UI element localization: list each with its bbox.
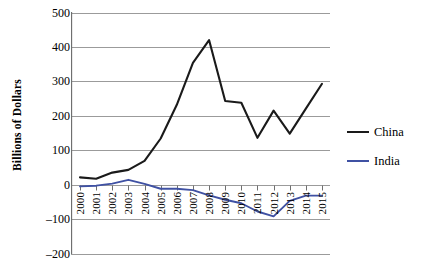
- y-tick-label: 400: [30, 41, 70, 53]
- x-tick-label: 2015: [317, 192, 328, 214]
- legend-item-china: China: [347, 122, 419, 142]
- x-tick-label: 2003: [123, 192, 134, 214]
- x-tick-label: 2002: [107, 192, 118, 214]
- x-tick-label: 2009: [220, 192, 231, 214]
- x-tick-label: 2008: [204, 192, 215, 214]
- y-axis-tick-labels: 5004003002001000–100–200: [26, 0, 70, 271]
- legend-swatch-india: [347, 160, 369, 162]
- x-tick-label: 2005: [156, 192, 167, 214]
- x-tick-label: 2000: [75, 192, 86, 214]
- y-axis-title: Billions of Dollars: [8, 60, 26, 190]
- y-tick-label: 0: [30, 179, 70, 191]
- x-tick-label: 2014: [301, 192, 312, 214]
- y-tick-label: 300: [30, 75, 70, 87]
- y-tick-label: 500: [30, 7, 70, 19]
- y-tick-label: –200: [30, 248, 70, 260]
- legend-swatch-china: [347, 131, 369, 133]
- legend-label-india: India: [374, 155, 400, 168]
- x-tick-label: 2010: [236, 192, 247, 214]
- legend-item-india: India: [347, 151, 419, 171]
- y-tick-label: –100: [30, 213, 70, 225]
- chart-legend: China India: [347, 122, 419, 180]
- line-chart: Billions of Dollars 5004003002001000–100…: [0, 0, 421, 271]
- x-tick-label: 2007: [188, 192, 199, 214]
- x-tick-label: 2013: [285, 192, 296, 214]
- x-tick-label: 2011: [252, 192, 263, 214]
- x-tick-label: 2012: [269, 192, 280, 214]
- x-tick-label: 2001: [91, 192, 102, 214]
- legend-label-china: China: [374, 126, 404, 139]
- x-tick-label: 2006: [172, 192, 183, 214]
- y-tick-label: 200: [30, 110, 70, 122]
- x-axis-tick-labels: 2000200120022003200420052006200720082009…: [71, 0, 341, 271]
- x-tick-label: 2004: [140, 192, 151, 214]
- y-tick-label: 100: [30, 144, 70, 156]
